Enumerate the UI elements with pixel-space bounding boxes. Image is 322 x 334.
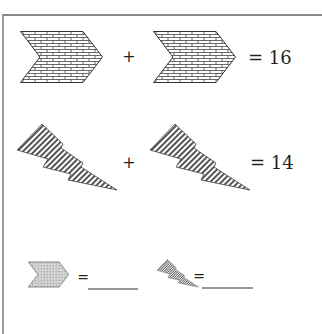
row2-result: = 14 [250, 152, 294, 173]
plus-operator: + [122, 47, 135, 66]
equals-sign: = [193, 268, 205, 284]
striped-lightning-shape [150, 124, 250, 190]
row1-result: = 16 [248, 47, 292, 68]
brick-chevron-small [28, 262, 69, 287]
striped-lightning-shape [17, 124, 117, 190]
brick-chevron-shape [154, 32, 236, 83]
plus-operator: + [122, 153, 135, 172]
equals-sign: = [77, 269, 89, 285]
brick-chevron-shape [21, 32, 103, 83]
